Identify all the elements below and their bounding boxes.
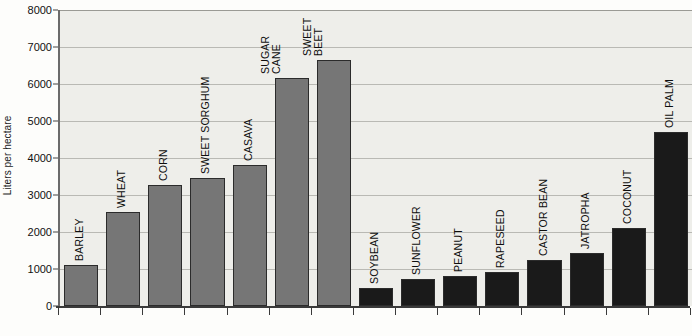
bar[interactable] xyxy=(359,288,393,306)
bar-category-label-line: SOYBEAN xyxy=(369,232,380,284)
bar-category-label-line: BEET xyxy=(313,18,324,56)
bar-category-label: PEANUT xyxy=(453,229,464,273)
bar-slot[interactable]: WHEAT xyxy=(102,10,144,306)
y-axis-title: Liters per hectare xyxy=(0,0,16,310)
x-tick-mark xyxy=(690,308,691,315)
bar-category-label: JATROPHA xyxy=(580,192,591,249)
bar-category-label: CASAVA xyxy=(243,119,254,161)
bar-category-label: SUGARCANE xyxy=(260,36,282,74)
bar-category-label-line: SUNFLOWER xyxy=(411,206,422,275)
bar-slot[interactable]: BARLEY xyxy=(60,10,102,306)
y-tick-label: 5000 xyxy=(28,115,52,127)
bar-slot[interactable]: OIL PALM xyxy=(650,10,692,306)
y-tick-label: 2000 xyxy=(28,226,52,238)
bar-series: BARLEYWHEATCORNSWEET SORGHUMCASAVASUGARC… xyxy=(60,10,692,306)
bar[interactable] xyxy=(64,265,98,306)
x-tick-mark xyxy=(100,308,101,315)
bar-category-label: SWEET SORGHUM xyxy=(200,77,211,175)
bar-category-label: WHEAT xyxy=(116,170,127,208)
y-tick-label: 4000 xyxy=(28,152,52,164)
bar-slot[interactable]: JATROPHA xyxy=(566,10,608,306)
x-tick-mark xyxy=(227,308,228,315)
bar-category-label: COCONUT xyxy=(622,169,633,223)
bar-category-label-line: SWEET SORGHUM xyxy=(200,77,211,175)
x-tick-mark xyxy=(142,308,143,315)
bar-category-label-line: OIL PALM xyxy=(664,79,675,128)
x-tick-mark xyxy=(564,308,565,315)
y-tick-label: 3000 xyxy=(28,189,52,201)
bar-category-label: OIL PALM xyxy=(664,79,675,128)
y-tick-label: 8000 xyxy=(28,4,52,16)
bar-category-label: SWEETBEET xyxy=(302,18,324,56)
bar-slot[interactable]: CASTOR BEAN xyxy=(523,10,565,306)
bar[interactable] xyxy=(612,228,646,306)
bar-slot[interactable]: SOYBEAN xyxy=(355,10,397,306)
bar-category-label-line: COCONUT xyxy=(622,169,633,223)
y-tick-label: 1000 xyxy=(28,263,52,275)
bar[interactable] xyxy=(317,60,351,306)
y-axis-tick-labels: 800070006000500040003000200010000 xyxy=(16,0,58,336)
bar-category-label-line: CASTOR BEAN xyxy=(538,178,549,255)
bar-category-label: SOYBEAN xyxy=(369,232,380,284)
x-tick-mark xyxy=(395,308,396,315)
bar-category-label-line: PEANUT xyxy=(453,229,464,273)
y-axis-title-text: Liters per hectare xyxy=(3,115,14,195)
bar-slot[interactable]: PEANUT xyxy=(439,10,481,306)
bar-category-label-line: BARLEY xyxy=(74,219,85,262)
x-tick-mark xyxy=(521,308,522,315)
bar-category-label: RAPESEED xyxy=(495,209,506,268)
bar[interactable] xyxy=(654,132,688,306)
plot-area: BARLEYWHEATCORNSWEET SORGHUMCASAVASUGARC… xyxy=(58,10,692,306)
x-tick-mark xyxy=(58,308,59,315)
bar[interactable] xyxy=(275,78,309,306)
bar[interactable] xyxy=(148,185,182,306)
bar[interactable] xyxy=(106,212,140,306)
bar-category-label: SUNFLOWER xyxy=(411,206,422,275)
bar-category-label-line: CASAVA xyxy=(243,119,254,161)
bar[interactable] xyxy=(527,260,561,306)
bar-slot[interactable]: SUNFLOWER xyxy=(397,10,439,306)
y-tick-label: 7000 xyxy=(28,41,52,53)
bar[interactable] xyxy=(570,253,604,306)
bar[interactable] xyxy=(401,279,435,306)
bar-slot[interactable]: CORN xyxy=(144,10,186,306)
x-tick-mark xyxy=(479,308,480,315)
bar-category-label: CORN xyxy=(158,149,169,181)
x-tick-mark xyxy=(269,308,270,315)
x-tick-mark xyxy=(648,308,649,315)
chart-page: Liters per hectare 800070006000500040003… xyxy=(0,0,692,336)
x-tick-mark xyxy=(353,308,354,315)
bar-category-label-line: CANE xyxy=(271,36,282,74)
x-tick-mark xyxy=(184,308,185,315)
bar-category-label: BARLEY xyxy=(74,219,85,262)
bar-category-label-line: JATROPHA xyxy=(580,192,591,249)
y-tick-label: 6000 xyxy=(28,78,52,90)
bar-slot[interactable]: SWEET SORGHUM xyxy=(186,10,228,306)
x-tick-mark xyxy=(311,308,312,315)
bar-category-label: CASTOR BEAN xyxy=(538,178,549,255)
bar-slot[interactable]: SWEETBEET xyxy=(313,10,355,306)
bar-slot[interactable]: RAPESEED xyxy=(481,10,523,306)
bar-category-label-line: CORN xyxy=(158,149,169,181)
bar[interactable] xyxy=(485,272,519,306)
y-tick-label: 0 xyxy=(46,300,52,312)
bar[interactable] xyxy=(233,165,267,306)
x-tick-mark xyxy=(606,308,607,315)
bar-slot[interactable]: COCONUT xyxy=(608,10,650,306)
bar-category-label-line: RAPESEED xyxy=(495,209,506,268)
bar-category-label-line: WHEAT xyxy=(116,170,127,208)
x-axis-ticks xyxy=(58,308,690,318)
x-tick-mark xyxy=(437,308,438,315)
bar[interactable] xyxy=(190,178,224,306)
bar[interactable] xyxy=(443,276,477,306)
